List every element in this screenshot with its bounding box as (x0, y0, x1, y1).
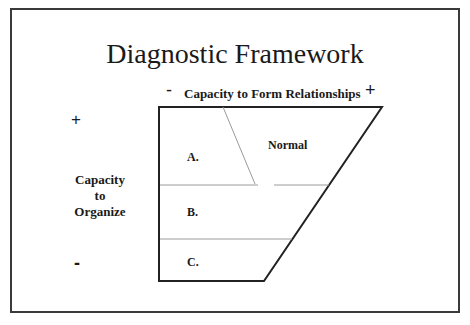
region-a-label: A. (187, 150, 199, 165)
region-c-label: C. (187, 255, 199, 270)
normal-divider-line (223, 107, 255, 184)
region-normal-label: Normal (268, 138, 307, 153)
region-b-label: B. (187, 205, 198, 220)
trapezoid-diagram (0, 0, 470, 325)
